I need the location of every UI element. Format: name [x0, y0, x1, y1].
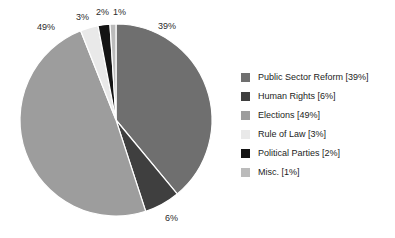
legend-label-misc: Misc. [1%]: [258, 167, 300, 178]
legend-label-human-rights: Human Rights [6%]: [258, 91, 336, 102]
legend-swatch-misc: [240, 167, 251, 178]
slice-label-misc: 1%: [113, 7, 126, 17]
legend-item-rule-of-law: Rule of Law [3%]: [239, 125, 395, 144]
pie-svg: [0, 0, 238, 238]
legend-item-human-rights: Human Rights [6%]: [239, 87, 395, 106]
legend-swatch-rule-of-law: [240, 129, 251, 140]
chart-legend: Public Sector Reform [39%] Human Rights …: [239, 68, 395, 182]
legend-swatch-political-parties: [240, 148, 251, 159]
legend-label-elections: Elections [49%]: [258, 110, 320, 121]
slice-label-public-sector-reform: 39%: [158, 21, 176, 31]
slice-label-political-parties: 2%: [96, 7, 109, 17]
legend-swatch-public-sector-reform: [240, 72, 251, 83]
pie-slice-group: [20, 24, 212, 216]
legend-item-elections: Elections [49%]: [239, 106, 395, 125]
legend-item-public-sector-reform: Public Sector Reform [39%]: [239, 68, 395, 87]
legend-swatch-human-rights: [240, 91, 251, 102]
slice-label-human-rights: 6%: [165, 213, 178, 223]
legend-label-rule-of-law: Rule of Law [3%]: [258, 129, 326, 140]
legend-item-political-parties: Political Parties [2%]: [239, 144, 395, 163]
pie-plot-area: 39% 6% 49% 3% 2% 1%: [0, 0, 238, 238]
legend-swatch-elections: [240, 110, 251, 121]
slice-label-rule-of-law: 3%: [76, 12, 89, 22]
legend-label-public-sector-reform: Public Sector Reform [39%]: [258, 72, 369, 83]
legend-label-political-parties: Political Parties [2%]: [258, 148, 340, 159]
slice-label-elections: 49%: [37, 22, 55, 32]
pie-chart-figure: 39% 6% 49% 3% 2% 1% Public Sector Reform…: [0, 0, 395, 238]
legend-item-misc: Misc. [1%]: [239, 163, 395, 182]
